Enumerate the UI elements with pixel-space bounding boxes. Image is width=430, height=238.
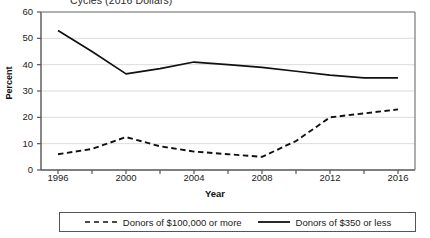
y-axis-tick-label-20: 20 bbox=[7, 112, 33, 122]
y-axis-tick-label-60: 60 bbox=[7, 7, 33, 17]
legend-swatch-dashed bbox=[84, 217, 118, 227]
x-axis-title: Year bbox=[0, 188, 430, 199]
chart-legend: Donors of $100,000 or more Donors of $35… bbox=[59, 212, 416, 232]
y-axis-tick-label-40: 40 bbox=[7, 60, 33, 70]
x-axis-tick-label-1996: 1996 bbox=[38, 172, 78, 183]
legend-label-0: Donors of $100,000 or more bbox=[123, 217, 242, 228]
x-axis-tick-label-2000: 2000 bbox=[106, 172, 146, 183]
legend-swatch-solid bbox=[257, 217, 291, 227]
plot-area bbox=[0, 0, 430, 238]
y-axis-tick-label-0: 0 bbox=[7, 165, 33, 175]
x-axis-tick-label-2012: 2012 bbox=[310, 172, 350, 183]
series-line-0 bbox=[58, 109, 398, 156]
y-axis-tick-label-50: 50 bbox=[7, 33, 33, 43]
series-line-1 bbox=[58, 30, 398, 77]
x-axis-tick-label-2008: 2008 bbox=[242, 172, 282, 183]
legend-item-donors-100000-or-more: Donors of $100,000 or more bbox=[84, 217, 242, 228]
y-axis-tick-label-30: 30 bbox=[7, 86, 33, 96]
y-axis-tick-label-10: 10 bbox=[7, 139, 33, 149]
x-axis-tick-label-2016: 2016 bbox=[378, 172, 418, 183]
legend-label-1: Donors of $350 or less bbox=[296, 217, 392, 228]
chart-container: Cycles (2016 Dollars) Percent 0102030405… bbox=[0, 0, 430, 238]
x-axis-tick-label-2004: 2004 bbox=[174, 172, 214, 183]
legend-item-donors-350-or-less: Donors of $350 or less bbox=[257, 217, 392, 228]
